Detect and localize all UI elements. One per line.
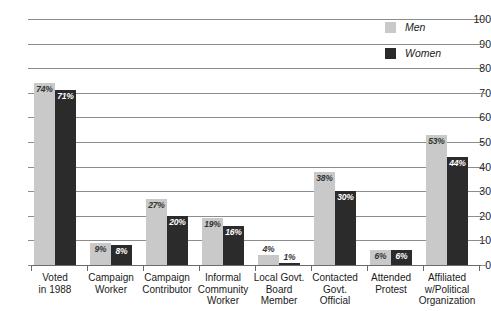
bar-value-label: 53% xyxy=(426,137,447,146)
category-label-line: w/Political xyxy=(414,284,480,296)
bar-men: 38% xyxy=(314,172,335,265)
legend-label: Women xyxy=(405,48,441,59)
men-swatch xyxy=(385,22,396,33)
category-label-line: Affiliated xyxy=(414,272,480,284)
bar-value-label: 8% xyxy=(111,247,132,256)
bar-women: 16% xyxy=(223,226,244,265)
bar-women: 30% xyxy=(335,191,356,265)
bar-value-label: 38% xyxy=(314,174,335,183)
legend-label: Men xyxy=(405,22,425,33)
bar-women: 6% xyxy=(391,250,412,265)
bar-value-label: 20% xyxy=(167,218,188,227)
x-axis-tick-0 xyxy=(31,265,32,271)
bar-value-label: 44% xyxy=(447,159,468,168)
category-label-line: Official xyxy=(302,295,368,307)
bar-women: 20% xyxy=(167,216,188,265)
bar-men: 4% xyxy=(258,255,279,265)
grouped-bar-chart: 1009080706050403020100 74%71%9%8%27%20%1… xyxy=(0,0,491,311)
category-label: Affiliatedw/PoliticalOrganization xyxy=(414,272,480,307)
x-axis-tick-7 xyxy=(423,265,424,271)
bar-men: 9% xyxy=(90,243,111,265)
x-axis-tick-5 xyxy=(311,265,312,271)
bar-value-label: 16% xyxy=(223,228,244,237)
x-axis-tick-1 xyxy=(87,265,88,271)
bar-value-label: 4% xyxy=(258,245,279,254)
bar-women: 8% xyxy=(111,245,132,265)
bar-men: 74% xyxy=(34,83,55,265)
category-label-line: Organization xyxy=(414,295,480,307)
bar-value-label: 30% xyxy=(335,193,356,202)
bar-value-label: 19% xyxy=(202,220,223,229)
x-axis-tick-8 xyxy=(479,265,480,271)
women-swatch xyxy=(385,48,396,59)
bar-value-label: 6% xyxy=(370,252,391,261)
bar-women: 44% xyxy=(447,157,468,265)
bar-value-label: 71% xyxy=(55,92,76,101)
x-axis-tick-4 xyxy=(255,265,256,271)
bar-value-label: 6% xyxy=(391,252,412,261)
bar-women: 1% xyxy=(279,263,300,265)
x-axis-tick-2 xyxy=(143,265,144,271)
bar-value-label: 27% xyxy=(146,201,167,210)
bar-men: 53% xyxy=(426,135,447,265)
bar-men: 19% xyxy=(202,218,223,265)
bar-women: 71% xyxy=(55,90,76,265)
bar-value-label: 74% xyxy=(34,85,55,94)
bar-men: 27% xyxy=(146,199,167,265)
x-axis-tick-6 xyxy=(367,265,368,271)
bar-men: 6% xyxy=(370,250,391,265)
bar-value-label: 1% xyxy=(279,253,300,262)
bar-value-label: 9% xyxy=(90,245,111,254)
x-axis-tick-3 xyxy=(199,265,200,271)
